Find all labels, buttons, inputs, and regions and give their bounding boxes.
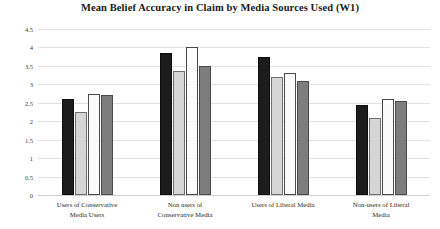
x-axis-category-label-line: Media bbox=[332, 210, 430, 220]
bar-group bbox=[160, 29, 211, 195]
bar-group bbox=[258, 29, 309, 195]
bar bbox=[258, 57, 270, 195]
bar bbox=[271, 77, 283, 195]
bar bbox=[62, 99, 74, 195]
bar-chart: Mean Belief Accuracy in Claim by Media S… bbox=[0, 0, 440, 229]
x-axis-category-label: Users of ConservativeMedia Users bbox=[38, 200, 136, 219]
x-axis-category-label: Non users ofConservative Media bbox=[136, 200, 234, 219]
bar bbox=[101, 95, 113, 195]
bar-group bbox=[62, 29, 113, 195]
bar bbox=[186, 47, 198, 195]
y-axis-tick-label: 4.5 bbox=[25, 26, 33, 33]
bar-group bbox=[356, 29, 407, 195]
y-axis-tick-label: 1.5 bbox=[25, 136, 33, 143]
y-axis-tick-label: 3.5 bbox=[25, 62, 33, 69]
x-axis-category-label-line: Users of Conservative bbox=[38, 200, 136, 210]
y-axis-tick-label: 2.5 bbox=[25, 99, 33, 106]
bar bbox=[297, 81, 309, 195]
y-axis: 00.511.522.533.544.5 bbox=[0, 29, 38, 195]
y-axis-tick-label: 0.5 bbox=[25, 173, 33, 180]
x-axis-category-labels: Users of ConservativeMedia UsersNon user… bbox=[38, 200, 430, 228]
bar bbox=[199, 66, 211, 195]
y-axis-tick-label: 1 bbox=[30, 155, 33, 162]
plot-area bbox=[38, 29, 430, 195]
x-axis-category-label-line: Media Users bbox=[38, 210, 136, 220]
x-axis-category-label-line: Conservative Media bbox=[136, 210, 234, 220]
y-axis-tick-label: 2 bbox=[30, 118, 33, 125]
x-axis-category-label-line: Users of Liberal Media bbox=[234, 200, 332, 210]
bar bbox=[356, 105, 368, 195]
y-axis-tick-label: 3 bbox=[30, 81, 33, 88]
x-axis-category-label: Users of Liberal Media bbox=[234, 200, 332, 210]
x-axis-line bbox=[38, 195, 430, 196]
x-axis-category-label-line: Non users of bbox=[136, 200, 234, 210]
bar bbox=[160, 53, 172, 195]
bar bbox=[395, 101, 407, 195]
x-axis-category-label-line: Non-users of Liberal bbox=[332, 200, 430, 210]
bar bbox=[88, 94, 100, 195]
bar bbox=[284, 73, 296, 195]
y-axis-tick-label: 0 bbox=[30, 192, 33, 199]
y-axis-tick-label: 4 bbox=[30, 44, 33, 51]
bar bbox=[369, 118, 381, 195]
chart-title: Mean Belief Accuracy in Claim by Media S… bbox=[0, 2, 440, 13]
bar bbox=[75, 112, 87, 195]
bar bbox=[173, 71, 185, 195]
x-axis-category-label: Non-users of LiberalMedia bbox=[332, 200, 430, 219]
bar bbox=[382, 99, 394, 195]
